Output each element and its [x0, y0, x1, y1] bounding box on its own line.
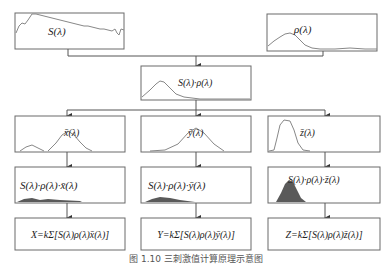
result-y-formula: Y=kΣ[S(λ)ρ(λ)ȳ(λ)]: [157, 229, 235, 241]
cmf-y-label: ȳ(λ): [187, 127, 204, 139]
weighted-z-label: S(λ)·ρ(λ)·z̄(λ): [288, 174, 340, 186]
cmf-y-box: ȳ(λ): [141, 116, 251, 152]
figure-caption: 图 1.10 三刺激值计算原理示意图: [129, 253, 263, 264]
tristimulus-diagram: S(λ) ρ(λ) S(λ)·ρ(λ) x̄(λ) ȳ(λ) z̄(λ): [0, 0, 391, 265]
reflectance-label: ρ(λ): [293, 23, 312, 36]
result-z-formula: Z=kΣ[S(λ)ρ(λ)z̄(λ)]: [285, 229, 362, 241]
weighted-x-box: S(λ)·ρ(λ)·x̄(λ): [15, 167, 125, 203]
weighted-y-label: S(λ)·ρ(λ)·ȳ(λ): [148, 179, 206, 192]
product-label: S(λ)·ρ(λ): [178, 77, 213, 89]
cmf-z-box: z̄(λ): [268, 116, 380, 152]
product-box: S(λ)·ρ(λ): [141, 66, 251, 100]
connector-reflectance: [196, 51, 323, 66]
weighted-y-box: S(λ)·ρ(λ)·ȳ(λ): [141, 167, 251, 203]
source-spectrum-box: S(λ): [15, 13, 124, 49]
weighted-x-label: S(λ)·ρ(λ)·x̄(λ): [20, 179, 78, 192]
result-y-box: Y=kΣ[S(λ)ρ(λ)ȳ(λ)]: [141, 218, 251, 250]
cmf-z-label: z̄(λ): [299, 127, 316, 139]
cmf-x-label: x̄(λ): [63, 127, 80, 139]
result-x-formula: X=kΣ[S(λ)ρ(λ)x̄(λ)]: [30, 229, 109, 241]
result-z-box: Z=kΣ[S(λ)ρ(λ)z̄(λ)]: [268, 218, 380, 250]
source-label: S(λ): [48, 25, 66, 38]
reflectance-box: ρ(λ): [267, 14, 377, 51]
weighted-z-box: S(λ)·ρ(λ)·z̄(λ): [268, 167, 380, 203]
cmf-x-box: x̄(λ): [15, 116, 125, 152]
result-x-box: X=kΣ[S(λ)ρ(λ)x̄(λ)]: [15, 218, 125, 250]
connector-source: [68, 49, 196, 56]
